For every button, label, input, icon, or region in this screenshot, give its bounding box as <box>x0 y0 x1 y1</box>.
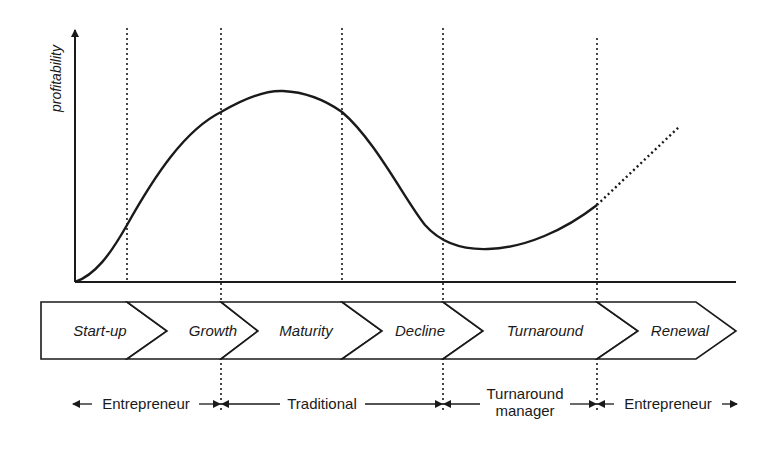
stage-label-growth: Growth <box>189 322 237 339</box>
stage-label-maturity: Maturity <box>279 322 334 339</box>
stage-label-renewal: Renewal <box>651 322 710 339</box>
axes <box>75 30 736 282</box>
role-label-entrepreneur-renewal: Entrepreneur <box>624 395 712 412</box>
stage-label-turnaround: Turnaround <box>507 322 584 339</box>
stage-label-decline: Decline <box>395 322 445 339</box>
business-lifecycle-diagram: profitability Start-up Growth Maturity D… <box>0 0 773 449</box>
role-label-turnaround-line2: manager <box>495 402 554 419</box>
role-labels: Entrepreneur Traditional Turnaround mana… <box>102 385 712 419</box>
role-label-entrepreneur: Entrepreneur <box>102 395 190 412</box>
stage-band <box>41 302 736 359</box>
y-axis-label: profitability <box>48 44 64 113</box>
profitability-curve <box>75 91 597 282</box>
projected-renewal-line <box>597 126 680 205</box>
role-label-turnaround-line1: Turnaround <box>487 385 564 402</box>
role-label-traditional: Traditional <box>287 395 356 412</box>
stage-label-startup: Start-up <box>73 322 126 339</box>
